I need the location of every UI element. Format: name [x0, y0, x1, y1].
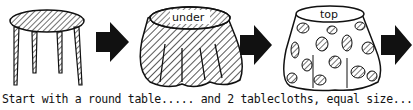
- arrow-right-icon: [381, 25, 412, 65]
- arrow-right-icon: [240, 25, 272, 65]
- illustration-canvas: under top: [0, 0, 413, 110]
- under-tablecloth-icon: under: [140, 7, 242, 87]
- under-label: under: [172, 11, 205, 24]
- caption-text: Start with a round table..... and 2 tabl…: [2, 92, 413, 106]
- top-tablecloth-icon: top: [284, 6, 381, 91]
- top-label: top: [320, 8, 338, 21]
- arrow-right-icon: [96, 22, 129, 62]
- round-table-icon: [10, 10, 84, 85]
